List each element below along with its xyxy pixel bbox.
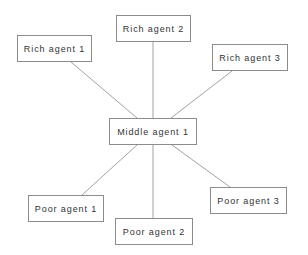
node-rich-agent-2: Rich agent 2 [116, 15, 191, 42]
edge-middle-rich1 [71, 62, 137, 118]
edge-middle-poor1 [82, 145, 137, 195]
node-label: Middle agent 1 [117, 127, 189, 137]
agent-network-diagram: Rich agent 1 Rich agent 2 Rich agent 3 M… [0, 0, 308, 255]
node-middle-agent-1: Middle agent 1 [109, 118, 197, 145]
node-poor-agent-2: Poor agent 2 [115, 218, 193, 245]
node-label: Poor agent 1 [35, 204, 97, 214]
node-label: Poor agent 2 [123, 227, 185, 237]
edge-middle-rich3 [171, 71, 232, 118]
edge-middle-poor3 [172, 145, 230, 187]
node-label: Poor agent 3 [217, 196, 279, 206]
node-rich-agent-1: Rich agent 1 [17, 35, 92, 62]
node-rich-agent-3: Rich agent 3 [212, 44, 288, 71]
node-label: Rich agent 1 [24, 44, 85, 54]
node-poor-agent-1: Poor agent 1 [28, 195, 104, 222]
node-label: Rich agent 2 [123, 24, 184, 34]
node-label: Rich agent 3 [219, 53, 280, 63]
node-poor-agent-3: Poor agent 3 [210, 187, 287, 214]
